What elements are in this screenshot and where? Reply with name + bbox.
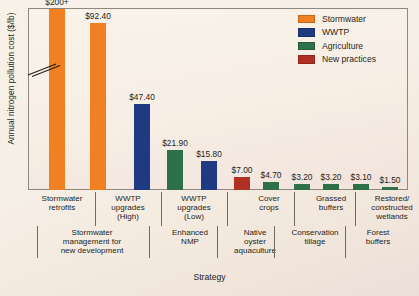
x-axis-separator-tick-3 bbox=[227, 192, 228, 226]
legend-label: Stormwater bbox=[322, 14, 366, 24]
legend-item-agriculture: Agriculture bbox=[298, 39, 376, 53]
x-label-line: upgrades bbox=[95, 203, 161, 212]
x-axis-group-tick-3 bbox=[217, 226, 218, 258]
bar-2: $92.40 bbox=[90, 9, 106, 190]
x-axis-label-top-6: Restored/constructedwetlands bbox=[363, 194, 419, 221]
x-label-line: (High) bbox=[95, 212, 161, 221]
x-axis-separator-tick-4 bbox=[294, 192, 295, 226]
legend-label: Agriculture bbox=[322, 41, 363, 51]
bar-value-label: $15.80 bbox=[196, 149, 222, 159]
x-axis-separator-tick-1 bbox=[95, 192, 96, 226]
legend-item-wwtp: WWTP bbox=[298, 26, 376, 40]
bar-value-label: $92.40 bbox=[85, 11, 111, 21]
bar-fill-wwtp bbox=[201, 161, 217, 190]
legend-swatch-icon bbox=[298, 28, 315, 37]
x-axis-label-bottom-1: Stormwatermanagement fornew development bbox=[37, 228, 147, 255]
x-axis-label-top-5: Grassedbuffers bbox=[301, 194, 361, 212]
x-axis-label-top-2: WWTPupgrades(High) bbox=[95, 194, 161, 221]
bar-fill-stormwater bbox=[49, 9, 65, 190]
figure: Annual nitrogen pollution cost ($/lb) $2… bbox=[0, 0, 419, 296]
x-label-line: constructed bbox=[363, 203, 419, 212]
bar-value-label: $7.00 bbox=[232, 165, 253, 175]
x-label-line: Grassed bbox=[301, 194, 361, 203]
x-label-line: retrofits bbox=[29, 203, 95, 212]
bar-fill-agriculture bbox=[382, 187, 398, 190]
x-axis-labels: StormwaterretrofitsWWTPupgrades(High)WWT… bbox=[29, 192, 407, 264]
bar-value-label: $3.10 bbox=[351, 172, 372, 182]
bar-3: $47.40 bbox=[134, 9, 150, 190]
bar-fill-agriculture bbox=[294, 184, 310, 190]
x-label-line: Cover bbox=[242, 194, 296, 203]
bar-value-label: $21.90 bbox=[162, 138, 188, 148]
bar-fill-agriculture bbox=[353, 184, 369, 190]
x-label-line: Restored/ bbox=[363, 194, 419, 203]
x-axis-label-top-3: WWTPupgrades(Low) bbox=[161, 194, 227, 221]
legend-swatch-icon bbox=[298, 15, 315, 24]
x-axis-group-tick-1 bbox=[37, 226, 38, 258]
x-label-line: management for bbox=[37, 237, 147, 246]
x-label-line: (Low) bbox=[161, 212, 227, 221]
x-axis-separator-tick-2 bbox=[161, 192, 162, 226]
x-label-line: Stormwater bbox=[29, 194, 95, 203]
x-label-line: buffers bbox=[351, 237, 405, 246]
bar-value-label: $200+ bbox=[45, 0, 69, 7]
x-label-line: tillage bbox=[277, 237, 353, 246]
x-label-line: Native bbox=[225, 228, 285, 237]
x-label-line: aquaculture bbox=[225, 246, 285, 255]
bar-value-label: $3.20 bbox=[321, 172, 342, 182]
bar-fill-new-practices bbox=[234, 177, 250, 190]
legend-swatch-icon bbox=[298, 42, 315, 51]
x-axis-label-bottom-3: Nativeoysteraquaculture bbox=[225, 228, 285, 255]
x-label-line: crops bbox=[242, 203, 296, 212]
x-axis-label-bottom-5: Forestbuffers bbox=[351, 228, 405, 246]
bar-1: $200+ bbox=[49, 9, 65, 190]
bar-6: $7.00 bbox=[234, 9, 250, 190]
bar-7: $4.70 bbox=[263, 9, 279, 190]
legend-swatch-icon bbox=[298, 55, 315, 64]
x-axis-title: Strategy bbox=[0, 272, 419, 282]
x-label-line: Conservation bbox=[277, 228, 353, 237]
bar-value-label: $47.40 bbox=[129, 92, 155, 102]
bar-value-label: $4.70 bbox=[261, 170, 282, 180]
bar-value-label: $3.20 bbox=[292, 172, 313, 182]
x-axis-group-tick-4 bbox=[274, 226, 275, 258]
x-label-line: NMP bbox=[159, 237, 221, 246]
x-axis-group-tick-2 bbox=[149, 226, 150, 258]
x-label-line: Forest bbox=[351, 228, 405, 237]
x-axis-label-bottom-2: EnhancedNMP bbox=[159, 228, 221, 246]
x-label-line: upgrades bbox=[161, 203, 227, 212]
x-label-line: wetlands bbox=[363, 212, 419, 221]
x-axis-separator-tick-5 bbox=[355, 192, 356, 226]
legend: StormwaterWWTPAgricultureNew practices bbox=[298, 12, 376, 66]
x-label-line: Stormwater bbox=[37, 228, 147, 237]
x-label-line: Enhanced bbox=[159, 228, 221, 237]
bar-fill-wwtp bbox=[134, 104, 150, 190]
bar-fill-stormwater bbox=[90, 23, 106, 190]
x-label-line: buffers bbox=[301, 203, 361, 212]
x-label-line: oyster bbox=[225, 237, 285, 246]
x-label-line: WWTP bbox=[161, 194, 227, 203]
x-label-line: new development bbox=[37, 246, 147, 255]
x-axis-label-top-1: Stormwaterretrofits bbox=[29, 194, 95, 212]
y-axis-title: Annual nitrogen pollution cost ($/lb) bbox=[7, 0, 16, 172]
bar-value-label: $1.50 bbox=[380, 175, 401, 185]
legend-label: New practices bbox=[322, 54, 376, 64]
bar-fill-agriculture bbox=[167, 150, 183, 190]
legend-item-new-practices: New practices bbox=[298, 53, 376, 67]
bar-4: $21.90 bbox=[167, 9, 183, 190]
x-axis-label-bottom-4: Conservationtillage bbox=[277, 228, 353, 246]
legend-item-stormwater: Stormwater bbox=[298, 12, 376, 26]
bar-11: $1.50 bbox=[382, 9, 398, 190]
legend-label: WWTP bbox=[322, 27, 349, 37]
x-axis-group-tick-5 bbox=[345, 226, 346, 258]
bar-5: $15.80 bbox=[201, 9, 217, 190]
x-label-line: WWTP bbox=[95, 194, 161, 203]
bar-fill-agriculture bbox=[263, 182, 279, 191]
bar-fill-agriculture bbox=[323, 184, 339, 190]
x-axis-label-top-4: Covercrops bbox=[242, 194, 296, 212]
